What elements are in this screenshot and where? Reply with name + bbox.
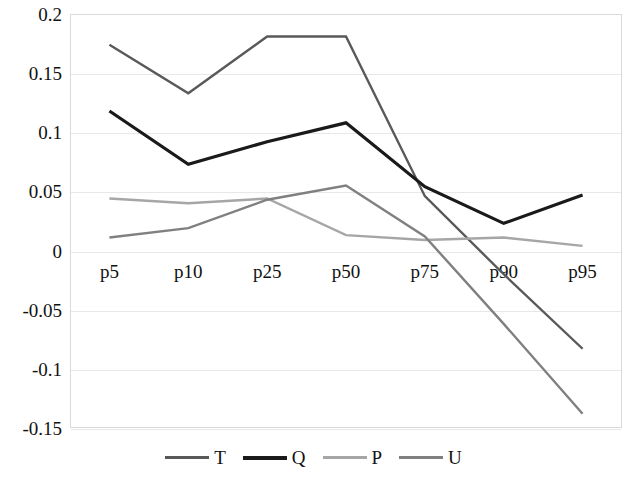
legend-label: U xyxy=(448,448,462,467)
legend-item-q[interactable]: Q xyxy=(243,448,306,467)
series-layer xyxy=(0,0,627,486)
legend-item-u[interactable]: U xyxy=(399,448,462,467)
legend-line-icon xyxy=(399,456,443,459)
series-line-q xyxy=(109,111,582,223)
chart-legend: TQPU xyxy=(0,448,627,467)
legend-label: Q xyxy=(292,448,306,467)
series-line-t xyxy=(109,36,582,348)
legend-label: P xyxy=(372,448,383,467)
legend-label: T xyxy=(214,448,226,467)
legend-line-icon xyxy=(323,456,367,459)
legend-line-icon xyxy=(243,456,287,460)
legend-item-t[interactable]: T xyxy=(165,448,226,467)
legend-line-icon xyxy=(165,456,209,459)
line-chart: 0.20.150.10.050-0.05-0.1-0.15 p5p10p25p5… xyxy=(0,0,627,486)
legend-item-p[interactable]: P xyxy=(323,448,383,467)
